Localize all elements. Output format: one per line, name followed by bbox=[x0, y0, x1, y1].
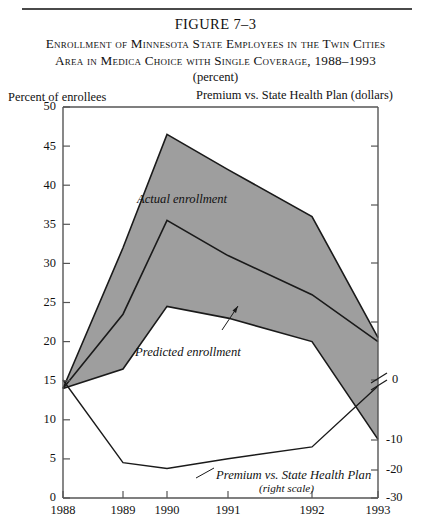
y-axis-right-ticks bbox=[371, 146, 378, 498]
y-axis-left-ticks bbox=[63, 107, 70, 498]
annotation-premium-line2: (right scale) bbox=[259, 482, 314, 494]
x-axis-ticks bbox=[63, 491, 378, 498]
annotation-premium-line1: Premium vs. State Health Plan bbox=[216, 468, 371, 483]
annotation-predicted-enrollment: Predicted enrollment bbox=[135, 345, 241, 360]
y-tick-label-10: 10 bbox=[26, 412, 56, 427]
y-tick-label-30: 30 bbox=[26, 256, 56, 271]
premium-leader-line bbox=[196, 468, 214, 478]
y-tick-label-20: 20 bbox=[26, 334, 56, 349]
x-tick-label-1990: 1990 bbox=[141, 503, 193, 518]
y2-tick-label--10: -10 bbox=[386, 432, 403, 447]
y-tick-label-50: 50 bbox=[26, 99, 56, 114]
x-tick-label-1991: 1991 bbox=[202, 503, 254, 518]
y-tick-label-15: 15 bbox=[26, 373, 56, 388]
premium-line bbox=[63, 380, 378, 469]
actual-vs-predicted-band bbox=[63, 134, 378, 439]
x-tick-label-1993: 1993 bbox=[352, 503, 404, 518]
annotation-actual-enrollment: Actual enrollment bbox=[137, 192, 227, 207]
y-tick-label-45: 45 bbox=[26, 139, 56, 154]
x-tick-label-1988: 1988 bbox=[37, 503, 89, 518]
y-tick-label-40: 40 bbox=[26, 178, 56, 193]
y2-tick-label--20: -20 bbox=[386, 462, 403, 477]
chart-plot bbox=[0, 0, 431, 528]
figure-container: FIGURE 7–3 Enrollment of Minnesota State… bbox=[0, 0, 431, 528]
x-tick-label-1992: 1992 bbox=[286, 503, 338, 518]
y-tick-label-5: 5 bbox=[26, 451, 56, 466]
y-tick-label-35: 35 bbox=[26, 217, 56, 232]
y2-tick-label-0: 0 bbox=[392, 372, 398, 387]
y-tick-label-25: 25 bbox=[26, 295, 56, 310]
